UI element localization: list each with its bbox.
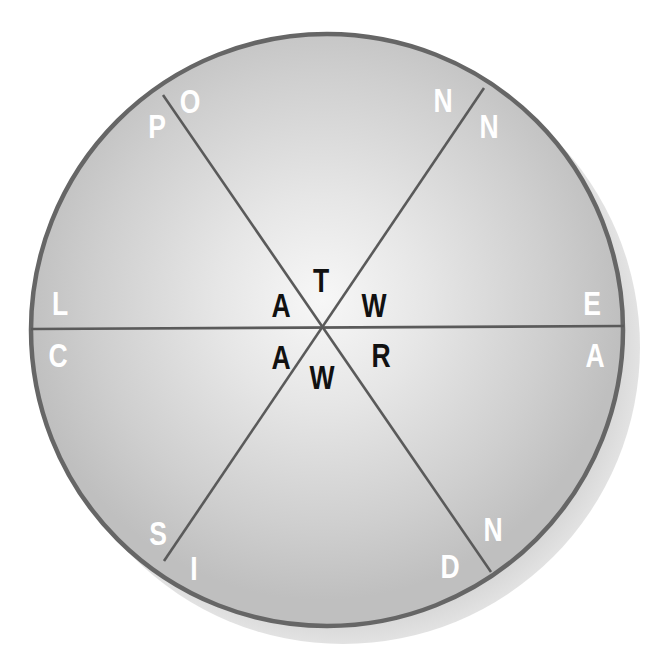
outer-letter-n-top: N	[433, 83, 452, 117]
wheel-graphic	[0, 0, 665, 655]
outer-letter-s: S	[149, 516, 167, 550]
center-letter-top-t: T	[313, 263, 329, 297]
word-wheel-diagram: T A W A R W P O N N L C E A S I N D	[0, 0, 665, 655]
outer-letter-n-lower-right: N	[483, 512, 502, 546]
wheel-disc	[31, 34, 623, 626]
outer-letter-i: I	[190, 551, 197, 585]
outer-letter-l: L	[52, 286, 68, 320]
center-letter-lower-right-r: R	[371, 338, 390, 372]
outer-letter-c: C	[48, 338, 67, 372]
outer-letter-a-right: A	[585, 338, 604, 372]
outer-letter-e: E	[583, 286, 601, 320]
outer-letter-d: D	[440, 549, 459, 583]
center-letter-lower-left-a: A	[271, 340, 290, 374]
outer-letter-n-upper-right: N	[479, 109, 498, 143]
center-letter-upper-left-a: A	[271, 288, 290, 322]
outer-letter-o: O	[180, 84, 201, 118]
center-letter-upper-right-w: W	[361, 288, 386, 322]
outer-letter-p: P	[148, 109, 166, 143]
center-letter-bottom-w: W	[309, 360, 334, 394]
